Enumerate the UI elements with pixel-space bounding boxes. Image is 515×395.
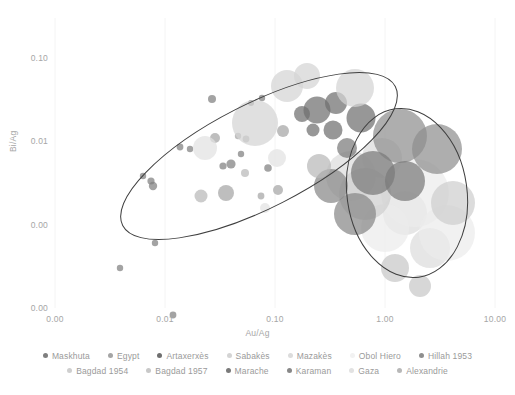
legend-label: Artaxerxès [166,351,208,361]
bubble-point [307,124,320,137]
legend-label: Bagdad 1954 [76,366,128,376]
legend-marker-icon [43,353,48,358]
bubble-point [268,149,286,167]
bubble-point [409,275,431,297]
legend-label: Obol Hiero [359,351,401,361]
legend-item-obol-hiero[interactable]: Obol Hiero [350,351,401,361]
legend-marker-icon [67,368,72,373]
legend-marker-icon [108,353,113,358]
legend-label: Maskhuta [52,351,90,361]
legend-marker-icon [397,368,402,373]
bubble-point [195,190,208,203]
bubble-point [187,146,193,152]
legend-marker-icon [288,353,293,358]
legend-label: Gaza [358,366,379,376]
legend-item-maskhuta[interactable]: Maskhuta [43,351,90,361]
legend-row: MaskhutaEgyptArtaxerxèsSabakèsMazakèsObo… [0,348,515,363]
legend-label: Alexandrie [406,366,448,376]
bubble-point [337,138,357,158]
bubble-point [258,193,265,200]
legend-label: Mazakès [297,351,332,361]
chart-legend: MaskhutaEgyptArtaxerxèsSabakèsMazakèsObo… [0,348,515,378]
legend-label: Karaman [296,366,332,376]
legend-item-bagdad-1954[interactable]: Bagdad 1954 [67,366,128,376]
x-tick-label: 0.10 [266,314,283,324]
bubble-point [208,95,216,103]
legend-marker-icon [226,368,231,373]
legend-label: Egypt [117,351,140,361]
bubble-point [241,169,249,177]
legend-marker-icon [287,368,292,373]
bubble-point [294,63,320,89]
legend-item-hillah-1953[interactable]: Hillah 1953 [419,351,472,361]
legend-label: Hillah 1953 [428,351,472,361]
y-tick-label: 0.01 [31,136,55,146]
bubble-point [324,121,343,140]
legend-marker-icon [349,368,354,373]
bubble-point [307,154,331,178]
legend-item-egypt[interactable]: Egypt [108,351,140,361]
legend-item-bagdad-1957[interactable]: Bagdad 1957 [146,366,207,376]
legend-row: Bagdad 1954Bagdad 1957MaracheKaramanGaza… [0,363,515,378]
bubble-point [347,104,376,133]
legend-marker-icon [146,368,151,373]
legend-item-alexandrie[interactable]: Alexandrie [397,366,448,376]
legend-item-karaman[interactable]: Karaman [287,366,332,376]
bubble-point [226,159,235,168]
legend-marker-icon [227,353,232,358]
bubble-point [117,265,123,271]
x-axis-label: Au/Ag [0,328,515,338]
bubble-layer [55,18,495,308]
bubble-point [232,100,278,146]
bubble-point [277,125,289,137]
bubble-points [117,63,475,318]
legend-item-gaza[interactable]: Gaza [349,366,379,376]
bubble-point [149,182,157,190]
bubble-point [385,161,425,201]
legend-label: Sabakès [236,351,270,361]
bubble-point [152,240,158,246]
y-tick-label: 0.00 [31,220,55,230]
bubble-chart: 0.100.010.000.00 0.000.010.101.0010.00 B… [0,0,515,395]
bubble-point [336,69,374,107]
bubble-point [260,203,270,213]
y-tick-label: 0.10 [31,53,55,63]
x-tick-label: 0.01 [156,314,173,324]
bubble-point [218,185,234,201]
x-tick-label: 1.00 [376,314,393,324]
legend-marker-icon [419,353,424,358]
legend-item-mazak-s[interactable]: Mazakès [288,351,332,361]
bubble-point [238,151,244,157]
bubble-point [219,162,226,169]
legend-marker-icon [157,353,162,358]
bubble-point [264,164,272,172]
bubble-point [273,185,283,195]
plot-area: 0.100.010.000.00 0.000.010.101.0010.00 [55,18,495,308]
legend-item-marache[interactable]: Marache [226,366,269,376]
y-tick-label: 0.00 [31,303,55,313]
legend-marker-icon [350,353,355,358]
legend-label: Marache [235,366,269,376]
legend-item-sabak-s[interactable]: Sabakès [227,351,270,361]
x-tick-label: 10.00 [484,314,506,324]
y-axis-label: Bi/Ag [8,131,18,152]
x-tick-label: 0.00 [46,314,63,324]
bubble-point [431,181,475,225]
legend-label: Bagdad 1957 [155,366,207,376]
bubble-point [193,136,217,160]
bubble-point [412,124,462,174]
legend-item-artaxerx-s[interactable]: Artaxerxès [157,351,208,361]
